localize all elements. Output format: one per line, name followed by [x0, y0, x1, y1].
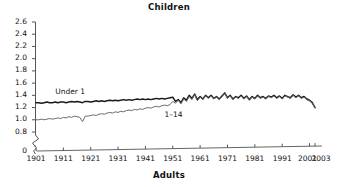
y-tick-label: 0.8: [7, 128, 27, 136]
series-label-under-1: Under 1: [55, 88, 85, 96]
x-tick-label: 1921: [78, 155, 104, 163]
x-tick-label: 1911: [50, 155, 76, 163]
x-tick-label: 1991: [269, 155, 295, 163]
y-tick-label: 1.4: [7, 91, 27, 99]
series-label-1-14: 1–14: [165, 111, 183, 119]
y-tick-label: 1.6: [7, 79, 27, 87]
x-axis-title: Adults: [0, 170, 338, 180]
y-tick-label: 2.0: [7, 54, 27, 62]
y-tick-label: 1.8: [7, 66, 27, 74]
x-tick-label: 1951: [160, 155, 186, 163]
x-tick-label: 1931: [105, 155, 131, 163]
y-tick-label: 1.0: [7, 115, 27, 123]
y-tick-label: 2.2: [7, 42, 27, 50]
y-tick-label: 2.4: [7, 30, 27, 38]
x-tick-label: 1901: [23, 155, 49, 163]
y-tick-label: 0: [7, 147, 27, 155]
y-tick-label: 2.6: [7, 18, 27, 26]
x-tick-label: 2003: [308, 155, 334, 163]
x-tick-label: 1971: [214, 155, 240, 163]
y-tick-label: 1.2: [7, 103, 27, 111]
chart-container: Children 2.62.42.22.01.81.61.41.21.00.80…: [0, 0, 338, 187]
x-tick-label: 1941: [132, 155, 158, 163]
x-tick-label: 1981: [242, 155, 268, 163]
x-tick-label: 1961: [187, 155, 213, 163]
